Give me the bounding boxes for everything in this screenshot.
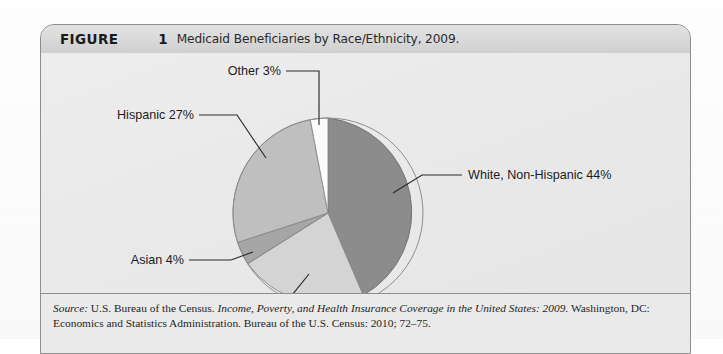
source-band: Source: U.S. Bureau of the Census. Incom… <box>41 293 690 353</box>
source-label: Source: <box>53 302 88 314</box>
leader-line-other <box>286 71 319 125</box>
source-part-1: U.S. Bureau of the Census. <box>88 302 217 314</box>
pie-label-asian: Asian 4% <box>131 253 184 267</box>
source-citation: Source: U.S. Bureau of the Census. Incom… <box>53 301 678 331</box>
figure-header: FIGURE 1 Medicaid Beneficiaries by Race/… <box>41 25 690 54</box>
pie-label-hispanic: Hispanic 27% <box>117 108 194 122</box>
figure-label: FIGURE <box>60 31 118 47</box>
chart-plot-area: Other 3% Hispanic 27% White, Non-Hispani… <box>41 53 690 293</box>
pie-label-other: Other 3% <box>228 64 281 78</box>
pie-label-white-non-hispanic: White, Non-Hispanic 44% <box>468 168 612 182</box>
figure-number: 1 <box>158 31 167 47</box>
pie-chart: Other 3% Hispanic 27% White, Non-Hispani… <box>41 53 691 293</box>
source-title-italic: Income, Poverty, and Health Insurance Co… <box>217 302 568 314</box>
figure-caption: Medicaid Beneficiaries by Race/Ethnicity… <box>177 32 460 46</box>
figure-container: FIGURE 1 Medicaid Beneficiaries by Race/… <box>40 24 691 354</box>
